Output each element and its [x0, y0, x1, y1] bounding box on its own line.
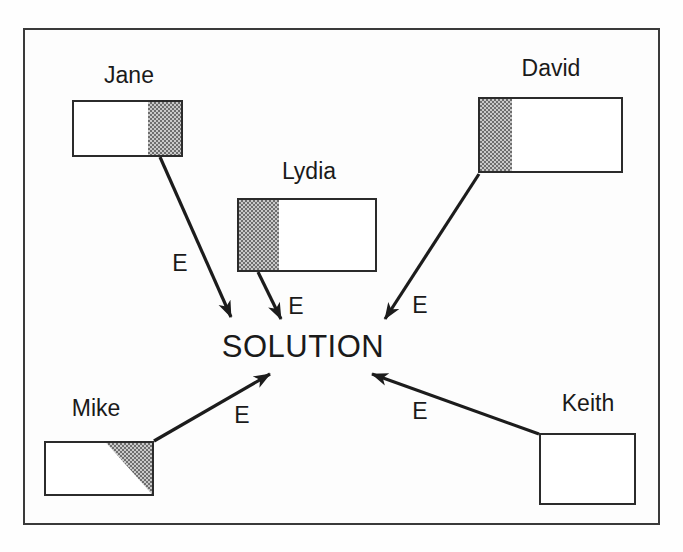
edge-label-mike: E: [234, 404, 249, 427]
person-label-david: David: [522, 57, 581, 80]
edge-label-david: E: [412, 294, 427, 317]
shaded-region-mike-triangle: [46, 443, 152, 494]
solution-label: SOLUTION: [222, 331, 384, 362]
person-box-jane: [72, 100, 183, 157]
person-box-david: [478, 97, 623, 173]
edge-label-keith: E: [412, 400, 427, 423]
person-label-keith: Keith: [562, 392, 614, 415]
edge-label-jane: E: [172, 252, 187, 275]
edge-label-lydia: E: [288, 295, 303, 318]
person-label-lydia: Lydia: [282, 160, 336, 183]
person-box-mike: [44, 441, 154, 496]
person-box-lydia: [237, 198, 377, 272]
diagram-canvas: Jane David Lydia Mike Keith E E E E E SO…: [0, 0, 683, 552]
shaded-region-lydia: [239, 200, 279, 270]
shaded-region-jane: [148, 102, 181, 155]
person-label-jane: Jane: [104, 64, 154, 87]
person-label-mike: Mike: [72, 397, 121, 420]
person-box-keith: [539, 433, 636, 505]
shaded-region-david: [480, 99, 512, 171]
